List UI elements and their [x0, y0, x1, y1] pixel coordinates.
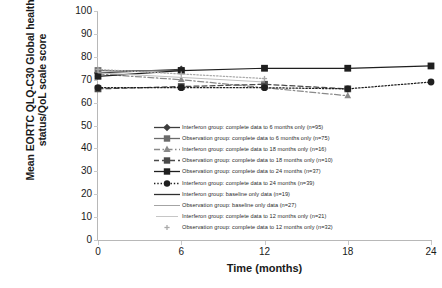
legend-label: Observation group: baseline only data (n… — [182, 202, 296, 209]
legend-item: Observation group: complete data to 12 m… — [152, 222, 396, 233]
legend-key-diamond-icon — [152, 122, 182, 133]
x-tick-label: 18 — [328, 246, 368, 257]
data-point — [95, 84, 102, 91]
legend-label: Observation group: complete data to 6 mo… — [182, 135, 330, 142]
legend-key-square-icon — [152, 133, 182, 144]
legend-label: Interferon group: complete data to 24 mo… — [182, 180, 314, 187]
legend-label: Interferon group: complete data to 12 mo… — [182, 213, 326, 220]
data-point — [344, 92, 351, 98]
legend-item: Interferon group: complete data to 6 mon… — [152, 122, 396, 133]
data-point — [95, 73, 102, 80]
x-tick-mark — [348, 241, 349, 245]
data-point — [344, 65, 351, 72]
y-tick-label: 90 — [62, 29, 92, 39]
y-tick-label: 50 — [62, 121, 92, 131]
chart-container: Mean EORTC QLQ-C30 Global health status/… — [0, 0, 442, 288]
legend-label: Observation group: complete data to 18 m… — [182, 157, 333, 164]
x-tick-label: 0 — [78, 246, 118, 257]
x-tick-label: 6 — [161, 246, 201, 257]
legend-item: Interferon group: complete data to 18 mo… — [152, 144, 396, 155]
legend-label: Interferon group: complete data to 18 mo… — [182, 146, 326, 153]
legend-label: Interferon group: baseline only data (n=… — [182, 191, 290, 198]
legend-item: Observation group: complete data to 24 m… — [152, 166, 396, 177]
y-tick-label: 80 — [62, 52, 92, 62]
legend-key-none-icon — [152, 189, 182, 200]
x-tick-label: 24 — [411, 246, 442, 257]
y-tick-label: 60 — [62, 98, 92, 108]
x-axis-title: Time (months) — [98, 262, 431, 274]
data-point — [428, 79, 435, 86]
legend-item: Observation group: complete data to 18 m… — [152, 155, 396, 166]
y-tick-label: 10 — [62, 212, 92, 222]
y-tick-label: 70 — [62, 75, 92, 85]
y-tick-label: 30 — [62, 166, 92, 176]
legend-key-none-icon — [152, 200, 182, 211]
legend-label: Observation group: complete data to 12 m… — [182, 224, 333, 231]
y-tick-label: 100 — [62, 6, 92, 16]
data-point — [178, 84, 185, 91]
chart-legend: Interferon group: complete data to 6 mon… — [152, 122, 396, 233]
x-tick-mark — [98, 241, 99, 245]
y-tick-label: 0 — [62, 235, 92, 245]
legend-key-circle-icon — [152, 178, 182, 189]
legend-key-square-icon — [152, 166, 182, 177]
legend-item: Interferon group: baseline only data (n=… — [152, 189, 396, 200]
data-point — [344, 85, 351, 92]
x-tick-mark — [181, 241, 182, 245]
data-point — [261, 65, 268, 72]
y-axis-title: Mean EORTC QLQ-C30 Global health status/… — [24, 0, 48, 190]
data-point — [428, 63, 435, 70]
y-tick-label: 20 — [62, 189, 92, 199]
x-tick-mark — [431, 241, 432, 245]
legend-key-triangle-icon — [152, 144, 182, 155]
data-point — [261, 84, 268, 91]
data-point — [262, 76, 267, 81]
legend-label: Interferon group: complete data to 6 mon… — [182, 124, 323, 131]
legend-key-cross-icon — [152, 222, 182, 233]
legend-key-square-icon — [152, 155, 182, 166]
legend-item: Observation group: baseline only data (n… — [152, 200, 396, 211]
legend-item: Interferon group: complete data to 24 mo… — [152, 177, 396, 188]
legend-label: Observation group: complete data to 24 m… — [182, 168, 321, 175]
legend-item: Interferon group: complete data to 12 mo… — [152, 211, 396, 222]
legend-item: Observation group: complete data to 6 mo… — [152, 133, 396, 144]
y-tick-label: 40 — [62, 143, 92, 153]
legend-key-none-icon — [152, 211, 182, 222]
x-tick-label: 12 — [245, 246, 285, 257]
x-tick-mark — [265, 241, 266, 245]
series-3 — [95, 81, 352, 92]
